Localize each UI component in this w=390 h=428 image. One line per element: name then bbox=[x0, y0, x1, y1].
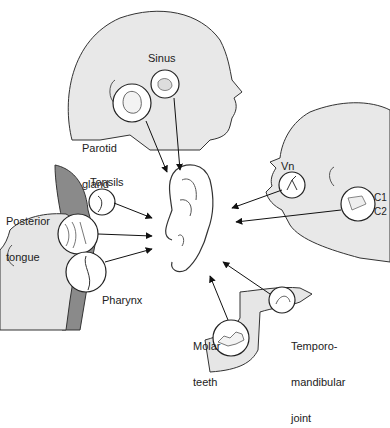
label-parotid-gland: Parotid gland bbox=[82, 118, 117, 202]
label-sinus: Sinus bbox=[148, 52, 176, 64]
tmj-inset bbox=[269, 287, 295, 313]
posterior-tongue-inset bbox=[58, 214, 98, 254]
label-posterior-tongue: Posterior tongue bbox=[6, 191, 50, 275]
label-tonsils: Tonsils bbox=[90, 176, 124, 188]
label-molar-teeth: Molar teeth bbox=[193, 316, 221, 400]
label-c1: C1 bbox=[374, 192, 387, 204]
label-temporomandibular-joint: Temporo- mandibular joint bbox=[291, 316, 345, 428]
pharynx-inset bbox=[66, 252, 106, 292]
label-pharynx: Pharynx bbox=[102, 294, 142, 306]
label-c2: C2 bbox=[374, 206, 387, 218]
vn-inset bbox=[279, 172, 305, 198]
ear-illustration bbox=[166, 165, 213, 272]
label-vn: Vn bbox=[281, 160, 294, 172]
